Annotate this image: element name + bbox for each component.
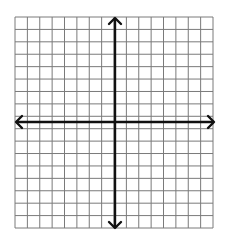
coordinate-plane [0,0,226,240]
axes [16,18,214,228]
